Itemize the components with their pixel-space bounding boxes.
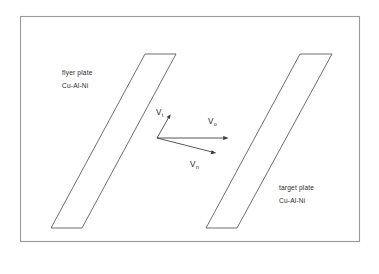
- vector-v0-subscript: o: [214, 121, 217, 127]
- vector-v0: [157, 136, 229, 140]
- figure-container: flyer plate Cu-Al-Ni target plate Cu-Al-…: [0, 0, 379, 274]
- target-plate-material-label: Cu-Al-Ni: [279, 198, 305, 205]
- vector-v0-symbol: V: [208, 117, 213, 126]
- vector-vn-subscript: n: [196, 164, 199, 170]
- vector-vt: [157, 114, 171, 138]
- vector-vn-symbol: V: [190, 160, 195, 169]
- vector-vn-label: Vn: [190, 161, 199, 169]
- flyer-plate-label: flyer plate: [62, 70, 93, 77]
- vector-vn: [157, 138, 216, 154]
- target-plate-label: target plate: [279, 185, 314, 192]
- flyer-plate-shape: [51, 54, 176, 228]
- target-plate-shape: [206, 54, 332, 228]
- vector-vt-subscript: t: [162, 112, 164, 118]
- vector-vt-symbol: V: [156, 108, 161, 117]
- flyer-plate-material-label: Cu-Al-Ni: [62, 83, 88, 90]
- vector-vt-label: Vt: [156, 109, 163, 117]
- diagram-canvas: [0, 0, 379, 274]
- vector-v0-label: Vo: [208, 118, 217, 126]
